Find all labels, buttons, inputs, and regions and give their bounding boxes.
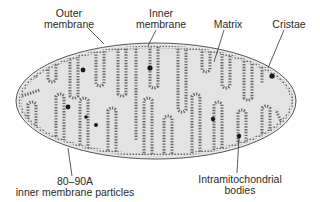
- label-bodies: Intramitochondrial bodies: [190, 174, 290, 196]
- label-inner-membrane: Inner membrane: [126, 8, 196, 30]
- leader-cristae: [268, 30, 284, 68]
- leader-particles: [68, 148, 72, 176]
- label-particles: 80–90A inner membrane particles: [10, 176, 140, 198]
- inner-membrane: [20, 47, 292, 155]
- label-cristae: Cristae: [266, 19, 312, 30]
- label-matrix: Matrix: [208, 19, 248, 30]
- mitochondrion-diagram: [0, 0, 320, 202]
- label-outer-membrane: Outer membrane: [34, 8, 104, 30]
- leader-outer-membrane: [88, 28, 104, 44]
